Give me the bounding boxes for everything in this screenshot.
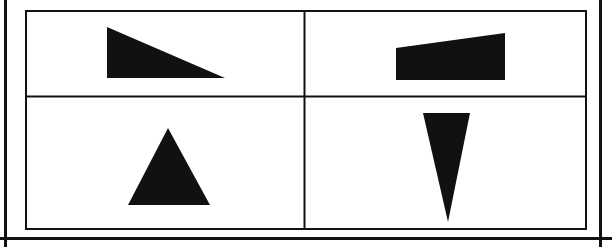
figure-root [0,0,612,247]
shape-grid-figure [0,0,612,247]
